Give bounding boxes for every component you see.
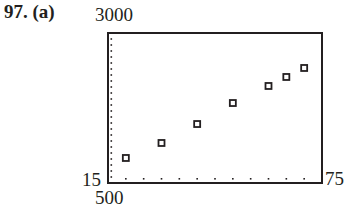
y-tick-dot (111, 38, 113, 40)
y-tick-dot (111, 92, 113, 94)
x-tick-dot (232, 178, 234, 180)
y-tick-dot (111, 152, 113, 154)
y-tick-dot (111, 170, 113, 172)
plot-frame (108, 33, 322, 183)
y-tick-dot (111, 122, 113, 124)
y-tick-dot (111, 110, 113, 112)
y-tick-dot (111, 44, 113, 46)
y-tick-dot (111, 86, 113, 88)
y-tick-dot (111, 56, 113, 58)
x-tick-dot (250, 178, 252, 180)
y-tick-dot (111, 140, 113, 142)
data-point (230, 100, 236, 106)
y-tick-dot (111, 80, 113, 82)
x-tick-dot (286, 178, 288, 180)
x-tick-dot (196, 178, 198, 180)
y-tick-dot (111, 62, 113, 64)
x-tick-dot (143, 178, 145, 180)
x-tick-dot (179, 178, 181, 180)
data-point (266, 83, 272, 89)
data-point (301, 65, 307, 71)
y-tick-dot (111, 74, 113, 76)
x-tick-dot (268, 178, 270, 180)
data-point (283, 74, 289, 80)
data-point (194, 121, 200, 127)
y-tick-dot (111, 158, 113, 160)
y-tick-dot (111, 68, 113, 70)
y-tick-dot (111, 98, 113, 100)
y-tick-dot (111, 134, 113, 136)
y-tick-dot (111, 50, 113, 52)
x-tick-dot (125, 178, 127, 180)
x-tick-dot (161, 178, 163, 180)
data-point (159, 140, 165, 146)
y-tick-dot (111, 104, 113, 106)
data-point (123, 155, 129, 161)
y-tick-dot (111, 128, 113, 130)
x-tick-dot (214, 178, 216, 180)
scatter-plot (0, 0, 347, 220)
y-tick-dot (111, 164, 113, 166)
x-tick-dot (303, 178, 305, 180)
y-tick-dot (111, 146, 113, 148)
y-tick-dot (111, 176, 113, 178)
y-tick-dot (111, 116, 113, 118)
